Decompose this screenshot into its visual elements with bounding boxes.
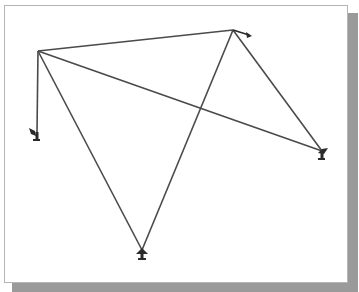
member-BD: [142, 30, 233, 250]
member-AB: [38, 30, 233, 51]
support-icon: [136, 248, 148, 260]
truss-members: [37, 30, 322, 250]
member-AD: [38, 51, 142, 250]
member-AC: [37, 51, 38, 132]
member-BE: [233, 30, 322, 151]
member-AE: [38, 51, 322, 151]
truss-supports: [29, 128, 328, 260]
support-icon: [29, 128, 40, 141]
